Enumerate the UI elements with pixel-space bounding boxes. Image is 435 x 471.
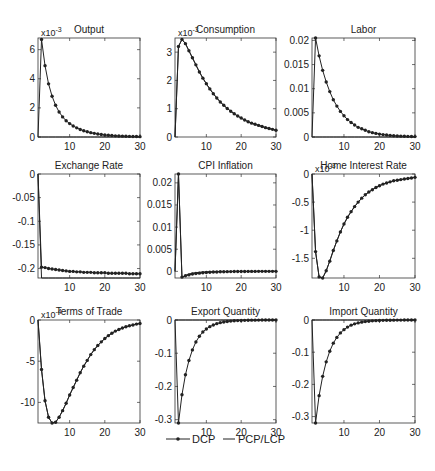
y-tick-label: 0 [303, 315, 309, 326]
data-point-dcp [317, 394, 320, 397]
y-tick-label: 0 [29, 169, 35, 180]
x-tick-label: 10 [64, 427, 76, 438]
data-point-dcp [110, 272, 113, 275]
data-point-dcp [385, 133, 388, 136]
y-tick-label: -0.1 [292, 347, 310, 358]
data-point-dcp [180, 393, 183, 396]
data-point-dcp [79, 128, 82, 131]
data-point-dcp [332, 98, 335, 101]
impulse-response-figure: Outputx10-31020300246Consumptionx10-3102… [0, 0, 435, 471]
y-tick-label: -0.05 [12, 192, 35, 203]
panel-home-interest-rate: Home Interest Ratex10-3102030-1.5-1-0.50 [292, 160, 421, 293]
data-point-dcp [317, 54, 320, 57]
data-point-dcp [107, 272, 110, 275]
data-point-dcp [321, 69, 324, 72]
panel-import-quantity: Import Quantity102030-0.3-0.2-0.10 [292, 306, 421, 438]
legend-dcp-marker [176, 437, 180, 441]
data-point-dcp [325, 360, 328, 363]
axes-box [312, 320, 415, 423]
data-point-dcp [64, 269, 67, 272]
data-point-dcp [47, 267, 50, 270]
series-line-dcp [38, 320, 140, 423]
data-point-dcp [346, 325, 349, 328]
axes-box [38, 320, 140, 423]
exponent-superscript: -4 [56, 308, 62, 315]
data-point-dcp [121, 272, 124, 275]
data-point-dcp [335, 336, 338, 339]
panel-title: Exchange Rate [55, 160, 124, 171]
x-tick-label: 30 [270, 141, 282, 152]
y-tick-label: 0 [166, 132, 172, 143]
y-tick-label: -5 [26, 356, 35, 367]
x-tick-label: 30 [134, 282, 146, 293]
data-point-dcp [184, 373, 187, 376]
data-point-dcp [82, 271, 85, 274]
y-tick-label: -0.15 [12, 239, 35, 250]
y-tick-label: 0.015 [284, 59, 309, 70]
x-tick-label: 30 [409, 141, 421, 152]
series-line-pcp-lcp [38, 174, 140, 278]
data-point-dcp [57, 268, 60, 271]
exponent-label: x10-3 [178, 26, 199, 38]
data-point-dcp [314, 421, 317, 424]
panel-consumption: Consumptionx10-31020300123 [166, 24, 282, 152]
data-point-dcp [43, 64, 46, 67]
data-point-dcp [356, 126, 359, 129]
x-tick-label: 10 [64, 141, 76, 152]
y-tick-label: 6 [29, 44, 35, 55]
data-point-dcp [128, 135, 131, 138]
data-point-dcp [128, 272, 131, 275]
data-point-dcp [68, 122, 71, 125]
data-point-dcp [75, 126, 78, 129]
data-point-dcp [86, 130, 89, 133]
data-point-dcp [360, 320, 363, 323]
data-point-dcp [82, 129, 85, 132]
data-point-dcp [50, 95, 53, 98]
data-point-dcp [61, 269, 64, 272]
y-tick-label: 0 [29, 315, 35, 326]
axes-box [175, 320, 276, 423]
x-tick-label: 20 [374, 141, 386, 152]
y-tick-label: -0.1 [155, 348, 173, 359]
y-tick-label: -0.3 [292, 411, 310, 422]
data-point-dcp [378, 132, 381, 135]
y-tick-label: 3 [166, 47, 172, 58]
data-point-dcp [314, 36, 317, 39]
series-line-dcp [175, 174, 276, 277]
y-tick-label: -0.5 [292, 197, 310, 208]
data-point-dcp [54, 268, 57, 271]
data-point-dcp [131, 272, 134, 275]
data-point-dcp [47, 82, 50, 85]
y-tick-label: 0 [166, 266, 172, 277]
exponent-label: x10-3 [41, 26, 62, 38]
data-point-dcp [191, 348, 194, 351]
y-tick-label: -0.2 [155, 381, 173, 392]
legend-dcp-label: DCP [192, 433, 215, 445]
y-tick-label: 0 [166, 315, 172, 326]
axes-box [312, 38, 415, 137]
y-tick-label: 0 [29, 132, 35, 143]
data-point-dcp [131, 135, 134, 138]
x-tick-label: 10 [201, 141, 213, 152]
panel-title: Import Quantity [329, 306, 397, 317]
y-tick-label: 2 [166, 75, 172, 86]
data-point-dcp [339, 331, 342, 334]
y-tick-label: 0 [303, 132, 309, 143]
x-tick-label: 20 [374, 427, 386, 438]
data-point-dcp [100, 133, 103, 136]
panel-title: CPI Inflation [198, 160, 252, 171]
x-tick-label: 20 [99, 282, 111, 293]
exponent-label: x10-3 [315, 162, 336, 174]
y-tick-label: 0.015 [147, 199, 172, 210]
axes-box [312, 174, 415, 278]
data-point-dcp [117, 272, 120, 275]
exponent-superscript: -3 [330, 162, 336, 169]
y-tick-label: 0.02 [153, 177, 173, 188]
data-point-dcp [374, 319, 377, 322]
y-tick-label: -0.2 [292, 379, 310, 390]
data-point-dcp [40, 38, 43, 41]
data-point-dcp [198, 335, 201, 338]
x-tick-label: 10 [338, 427, 350, 438]
x-tick-label: 10 [64, 282, 76, 293]
data-point-dcp [64, 119, 67, 122]
